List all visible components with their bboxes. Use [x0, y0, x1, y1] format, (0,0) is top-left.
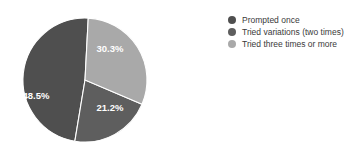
legend-circle-marker-icon [228, 16, 236, 24]
legend-circle-marker-icon [228, 28, 236, 36]
legend-item-tried-variations[interactable]: Tried variations (two times) [228, 26, 362, 38]
pie-plot-area: 48.5% 21.2% 30.3% [0, 0, 200, 153]
legend-circle-marker-icon [228, 40, 236, 48]
pie-slice-label-tried-three-or-more: 30.3% [97, 43, 124, 54]
legend-item-label: Prompted once [242, 14, 300, 26]
pie-slice-label-tried-variations: 21.2% [97, 102, 124, 113]
pie-svg: 48.5% 21.2% 30.3% [0, 0, 200, 153]
legend-item-prompted-once[interactable]: Prompted once [228, 14, 362, 26]
pie-chart-figure: 48.5% 21.2% 30.3% Prompted once Tried va… [0, 0, 362, 153]
legend-item-label: Tried three times or more [242, 38, 337, 50]
legend-item-label: Tried variations (two times) [242, 26, 344, 38]
chart-legend: Prompted once Tried variations (two time… [228, 14, 362, 50]
pie-slice-label-prompted-once: 48.5% [23, 90, 50, 101]
legend-item-tried-three-or-more[interactable]: Tried three times or more [228, 38, 362, 50]
